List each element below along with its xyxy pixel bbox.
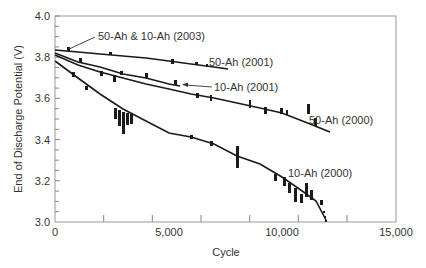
series-10ah-2001-markers bbox=[79, 58, 177, 85]
series-10ah-2000 bbox=[55, 61, 326, 220]
y-tick-4-0: 4.0 bbox=[35, 10, 50, 22]
annot-10ah-2000: 10-Ah (2000) bbox=[288, 167, 352, 179]
y-axis-ticks bbox=[55, 16, 60, 212]
annot-50ah-2000: 50-Ah (2000) bbox=[309, 114, 373, 126]
x-tick-10000: 10,000 bbox=[265, 226, 299, 238]
y-tick-3-8: 3.8 bbox=[35, 51, 50, 63]
series-10ah-2000-markers bbox=[72, 72, 327, 222]
annot-50ah-2001: 50-Ah (2001) bbox=[209, 56, 273, 68]
x-tick-5000: 5,000 bbox=[155, 226, 183, 238]
y-tick-3-2: 3.2 bbox=[35, 175, 50, 187]
annot-10ah-2001-leader bbox=[186, 85, 212, 87]
y-tick-3-0: 3.0 bbox=[35, 216, 50, 228]
annot-10ah-2001-arrowhead bbox=[182, 83, 188, 88]
x-tick-15000: 15,000 bbox=[379, 226, 413, 238]
y-axis-title: End of Discharge Potential (V) bbox=[12, 45, 24, 193]
series-10ah-2001 bbox=[55, 53, 180, 86]
x-tick-labels: 0 5,000 10,000 15,000 bbox=[52, 226, 413, 238]
y-tick-labels: 3.0 3.2 3.4 3.6 3.8 4.0 bbox=[35, 10, 50, 228]
annot-50ah-10ah-2003: 50-Ah & 10-Ah (2003) bbox=[98, 30, 205, 42]
annot-10ah-2001: 10-Ah (2001) bbox=[214, 81, 278, 93]
annot-2003-leader bbox=[67, 37, 95, 50]
y-tick-3-6: 3.6 bbox=[35, 92, 50, 104]
x-axis-title: Cycle bbox=[212, 246, 240, 258]
x-tick-0: 0 bbox=[52, 226, 58, 238]
y-tick-3-4: 3.4 bbox=[35, 134, 50, 146]
x-axis-ticks bbox=[104, 215, 347, 222]
chart: 3.0 3.2 3.4 3.6 3.8 4.0 0 5,000 10,000 1… bbox=[0, 0, 426, 268]
